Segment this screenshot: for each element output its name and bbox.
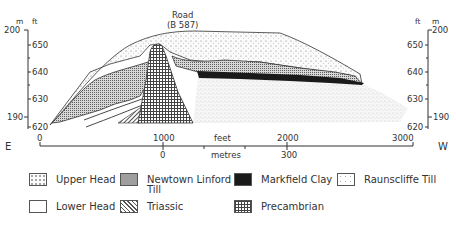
legend-label: Raunscliffe Till	[364, 173, 436, 185]
newtown-linford-till-swatch	[120, 173, 138, 186]
lower-head-swatch	[29, 200, 47, 213]
markfield-clay-swatch	[234, 173, 252, 186]
legend-item-newtown-linford-till: Newtown Linford Till	[120, 173, 231, 195]
legend-label: Markfield Clay	[261, 173, 332, 185]
legend-label: Lower Head	[56, 200, 115, 212]
legend-item-markfield-clay: Markfield Clay	[234, 173, 332, 186]
legend-item-upper-head: Upper Head	[29, 173, 116, 186]
legend-label: Newtown Linford Till	[147, 173, 231, 195]
legend-item-precambrian: Precambrian	[234, 200, 324, 213]
legend-label: Precambrian	[261, 200, 324, 212]
legend-item-triassic: Triassic	[120, 200, 183, 213]
legend: Upper Head Newtown Linford Till Markfiel…	[0, 0, 456, 225]
legend-label: Triassic	[147, 200, 183, 212]
precambrian-swatch	[234, 200, 252, 213]
legend-label-line2: Till	[147, 184, 161, 195]
triassic-swatch	[120, 200, 138, 213]
raunscliffe-till-swatch	[337, 173, 355, 186]
upper-head-swatch	[29, 173, 47, 186]
legend-label: Upper Head	[56, 173, 116, 185]
legend-item-lower-head: Lower Head	[29, 200, 115, 213]
legend-item-raunscliffe-till: Raunscliffe Till	[337, 173, 436, 186]
